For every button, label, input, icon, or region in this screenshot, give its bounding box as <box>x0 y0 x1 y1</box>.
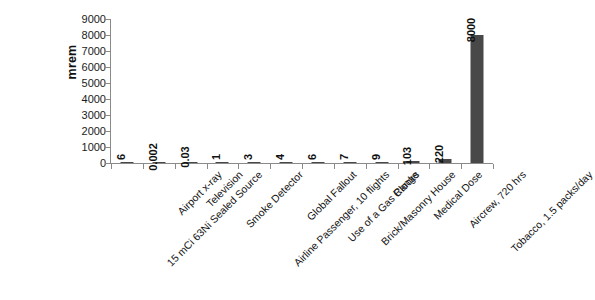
bar[interactable] <box>471 35 484 163</box>
bar-group[interactable]: 6 <box>111 19 143 163</box>
x-axis-tick-mark <box>334 164 335 169</box>
y-axis-tick-label: 8000 <box>62 30 106 41</box>
bar-group[interactable]: 9 <box>366 19 398 163</box>
y-axis-tick-mark <box>105 147 110 148</box>
y-axis-tick-label: 2000 <box>62 126 106 137</box>
bar-value-label: 8000 <box>466 18 477 42</box>
plot-area: 60.0020.031346791032208000 <box>111 19 493 163</box>
bar-group[interactable]: 0.03 <box>175 19 207 163</box>
y-axis-tick-mark <box>105 19 110 20</box>
y-axis-tick-mark <box>105 115 110 116</box>
y-axis-tick-label: 7000 <box>62 46 106 57</box>
y-axis-tick-label: 0 <box>62 158 106 169</box>
bar-value-label: 4 <box>275 154 286 160</box>
bar-group[interactable]: 8000 <box>461 19 493 163</box>
x-axis-tick-mark <box>398 164 399 169</box>
bar[interactable] <box>120 162 133 163</box>
bar[interactable] <box>280 162 293 163</box>
y-axis-tick-mark <box>105 83 110 84</box>
x-axis-tick-mark <box>111 164 112 169</box>
x-axis-tick-mark <box>207 164 208 169</box>
y-axis-tick-label: 9000 <box>62 14 106 25</box>
x-axis-tick-mark <box>366 164 367 169</box>
bar[interactable] <box>343 162 356 163</box>
bar-group[interactable]: 7 <box>334 19 366 163</box>
bar-group[interactable]: 103 <box>398 19 430 163</box>
x-axis-tick-mark <box>238 164 239 169</box>
y-axis-tick-mark <box>105 35 110 36</box>
y-axis-tick-label: 5000 <box>62 78 106 89</box>
x-axis-category-labels: 15 mCi 63Ni Sealed SourceAirport x-rayTe… <box>111 169 493 297</box>
x-axis-tick-mark <box>175 164 176 169</box>
y-axis-tick-mark <box>105 163 110 164</box>
y-axis-tick-mark <box>105 67 110 68</box>
bar[interactable] <box>216 162 229 163</box>
bar-value-label: 9 <box>371 154 382 160</box>
y-axis-tick-label: 1000 <box>62 142 106 153</box>
y-axis-tick-mark <box>105 51 110 52</box>
y-axis-tick-label: 3000 <box>62 110 106 121</box>
bar-value-label: 1 <box>211 154 222 160</box>
bar[interactable] <box>375 162 388 163</box>
bar-value-label: 0.002 <box>148 143 159 171</box>
x-axis-tick-mark <box>493 164 494 169</box>
bar-value-label: 220 <box>434 145 445 163</box>
bar-group[interactable]: 6 <box>302 19 334 163</box>
bar-group[interactable]: 3 <box>238 19 270 163</box>
bar-group[interactable]: 4 <box>270 19 302 163</box>
bar-value-label: 6 <box>116 154 127 160</box>
bar-group[interactable]: 220 <box>429 19 461 163</box>
bar-value-label: 103 <box>402 147 413 165</box>
bar-value-label: 7 <box>339 154 350 160</box>
x-axis-tick-mark <box>143 164 144 169</box>
x-axis-category-label: Clocks <box>391 169 421 199</box>
bar-value-label: 3 <box>243 154 254 160</box>
bar[interactable] <box>311 162 324 163</box>
y-axis-tick-labels: 0100020003000400050006000700080009000 <box>62 14 106 164</box>
y-axis-tick-mark <box>105 99 110 100</box>
bar-group[interactable]: 0.002 <box>143 19 175 163</box>
y-axis-tick-label: 6000 <box>62 62 106 73</box>
bar-value-label: 0.03 <box>180 146 191 167</box>
bar-group[interactable]: 1 <box>207 19 239 163</box>
y-axis-tick-label: 4000 <box>62 94 106 105</box>
bar-value-label: 6 <box>307 154 318 160</box>
y-axis-tick-mark <box>105 131 110 132</box>
bar[interactable] <box>248 162 261 163</box>
x-axis-tick-mark <box>461 164 462 169</box>
x-axis-tick-mark <box>429 164 430 169</box>
x-axis-tick-mark <box>270 164 271 169</box>
x-axis-tick-mark <box>302 164 303 169</box>
